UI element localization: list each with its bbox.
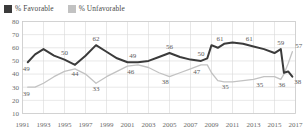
data-point-label: 59	[277, 39, 285, 47]
data-point-label: 36	[278, 81, 286, 89]
grid-lines	[23, 22, 296, 114]
x-tick-label: 2005	[163, 121, 178, 129]
x-tick-label: 1991	[16, 121, 31, 129]
chart-container: % Favorable % Unfavorable 80706050403020…	[0, 0, 306, 139]
x-tick-label: 1999	[100, 121, 115, 129]
data-point-label: 50	[61, 49, 69, 57]
data-point-label: 46	[127, 68, 135, 76]
x-tick-label: 1993	[37, 121, 52, 129]
x-tick-label: 2007	[184, 121, 199, 129]
x-tick-label: 2001	[121, 121, 136, 129]
line-chart-plot: 8070605040302010 19911993199519971999200…	[0, 0, 306, 139]
data-point-label: 44	[72, 70, 80, 78]
data-point-label: 35	[256, 81, 264, 89]
y-tick-label: 50	[12, 57, 20, 65]
data-point-label: 61	[216, 35, 224, 43]
y-tick-label: 80	[12, 18, 20, 26]
x-tick-label: 2009	[205, 121, 220, 129]
data-point-label: 49	[23, 65, 31, 73]
x-tick-label: 2011	[226, 121, 240, 129]
data-point-label: 61	[246, 35, 254, 43]
x-axis-tick-labels: 1991199319951997199920012003200520072009…	[16, 121, 304, 129]
data-point-label: 35	[222, 83, 230, 91]
data-point-label: 62	[93, 35, 101, 43]
data-point-label: 56	[166, 43, 174, 51]
data-point-label: 33	[93, 85, 101, 93]
y-tick-label: 20	[12, 97, 20, 105]
x-tick-label: 2003	[142, 121, 157, 129]
data-point-label: 50	[198, 50, 206, 58]
plot-area-border	[23, 22, 296, 114]
y-tick-label: 60	[12, 44, 20, 52]
y-tick-label: 10	[12, 110, 20, 118]
x-tick-label: 2017	[289, 121, 304, 129]
y-tick-label: 30	[12, 84, 20, 92]
x-tick-label: 1997	[79, 121, 94, 129]
x-tick-label: 1995	[58, 121, 73, 129]
data-point-label: 38	[162, 78, 170, 86]
data-point-label: 47	[193, 68, 201, 76]
data-point-label: 49	[129, 52, 137, 60]
y-axis-tick-labels: 8070605040302010	[12, 18, 20, 118]
x-tick-label: 2013	[247, 121, 262, 129]
y-tick-label: 70	[12, 31, 20, 39]
plot-border	[23, 22, 296, 114]
data-point-label: 57	[295, 42, 303, 50]
y-tick-label: 40	[12, 70, 20, 78]
x-tick-label: 2015	[268, 121, 283, 129]
data-point-label: 39	[23, 90, 31, 98]
data-point-label: 38	[294, 78, 302, 86]
